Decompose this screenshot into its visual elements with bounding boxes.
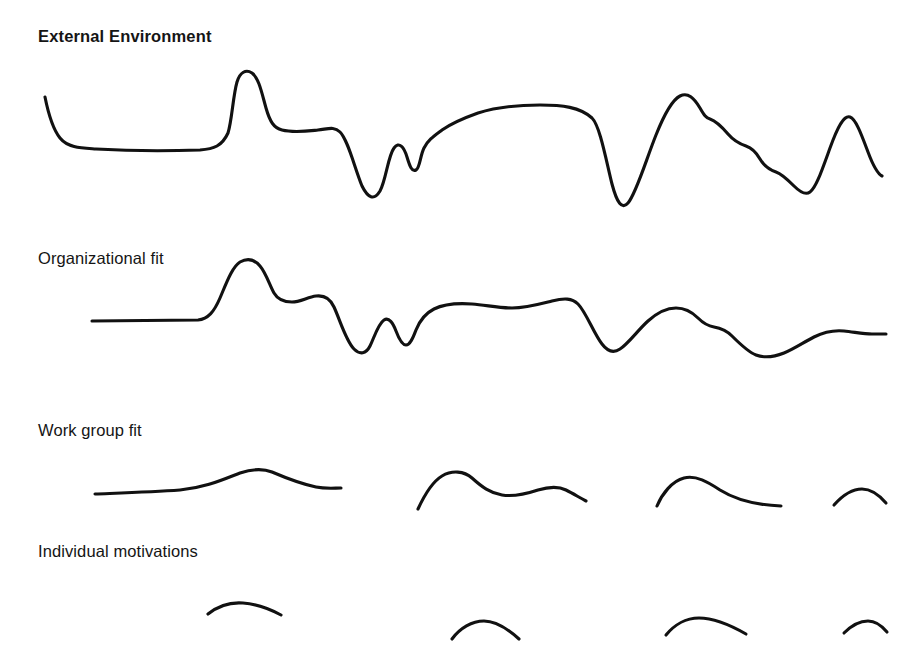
curve-segment [418, 472, 586, 509]
series-individual-motivations [208, 603, 887, 639]
waveform-layer [0, 0, 919, 672]
curve-segment [95, 469, 341, 494]
curve-segment [45, 71, 882, 205]
series-organizational-fit [92, 260, 886, 357]
curve-segment [452, 621, 519, 639]
curve-segment [208, 603, 281, 615]
curve-segment [834, 489, 886, 505]
curve-segment [657, 477, 781, 506]
figure-canvas: External Environment Organizational fit … [0, 0, 919, 672]
curve-segment [666, 618, 746, 635]
series-work-group-fit [95, 469, 886, 509]
curve-segment [844, 621, 887, 633]
series-external-environment [45, 71, 882, 205]
curve-segment [92, 260, 886, 357]
